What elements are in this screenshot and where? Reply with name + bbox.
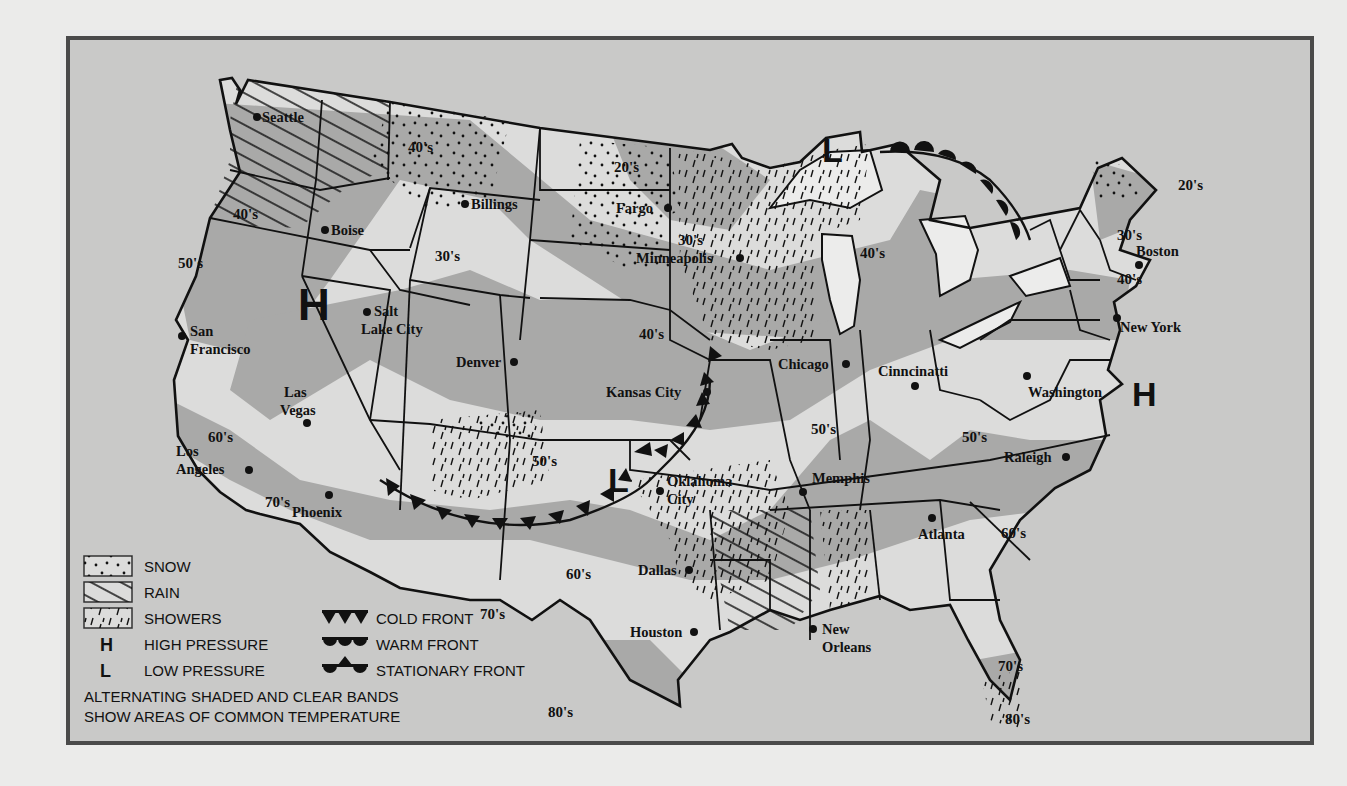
legend-low-label: LOW PRESSURE xyxy=(144,662,265,679)
city-salt-lake-city: Salt xyxy=(374,303,398,319)
temp-label: 40's xyxy=(408,139,433,155)
city-new-orleans: New xyxy=(822,621,850,637)
legend-note-line1: ALTERNATING SHADED AND CLEAR BANDS xyxy=(84,688,399,705)
city-las-vegas-line2: Vegas xyxy=(280,402,316,418)
temp-label: 60's xyxy=(208,429,233,445)
temp-label: 70's xyxy=(265,494,290,510)
legend-cold-front-label: COLD FRONT xyxy=(376,610,474,627)
high-pressure-east: H xyxy=(1132,375,1157,413)
legend-rain-label: RAIN xyxy=(144,584,180,601)
city-denver: Denver xyxy=(456,354,502,370)
legend-snow-label: SNOW xyxy=(144,558,192,575)
temp-label: 30's xyxy=(435,248,460,264)
temp-label: 50's xyxy=(532,453,557,469)
city-las-vegas: Las xyxy=(284,384,307,400)
legend-low-symbol: L xyxy=(100,661,111,681)
city-oklahoma-city: Oklahoma xyxy=(667,473,733,489)
city-new-orleans-line2: Orleans xyxy=(822,639,871,655)
city-new-york: New York xyxy=(1120,319,1182,335)
city-atlanta: Atlanta xyxy=(918,526,965,542)
city-cinncinatti: Cinncinatti xyxy=(878,363,948,379)
temp-label: 40's xyxy=(860,245,885,261)
legend-stationary-front-label: STATIONARY FRONT xyxy=(376,662,525,679)
legend-warm-front-label: WARM FRONT xyxy=(376,636,479,653)
temp-label: 40's xyxy=(1117,271,1142,287)
city-los-angeles-line2: Angeles xyxy=(176,461,225,477)
temp-label: 70's xyxy=(998,658,1023,674)
city-houston: Houston xyxy=(630,624,682,640)
us-weather-map: H H L L Seattle Boise Billings Fargo Min… xyxy=(70,40,1310,741)
city-washington: Washington xyxy=(1028,384,1102,400)
temp-label: 20's xyxy=(1178,177,1203,193)
city-los-angeles: Los xyxy=(176,443,199,459)
city-phoenix: Phoenix xyxy=(292,504,343,520)
legend-high-label: HIGH PRESSURE xyxy=(144,636,268,653)
city-boston: Boston xyxy=(1136,243,1179,259)
temp-label: 70's xyxy=(480,606,505,622)
city-san-francisco: San xyxy=(190,323,213,339)
city-salt-lake-city-line2: Lake City xyxy=(361,321,423,337)
temp-label: 50's xyxy=(962,429,987,445)
temp-label: 50's xyxy=(178,255,203,271)
temp-label: 50's xyxy=(811,421,836,437)
temp-label: 80's xyxy=(548,704,573,720)
temp-label: 20's xyxy=(614,159,639,175)
low-pressure-southern-plains: L xyxy=(608,461,629,499)
legend-warm-front-icon xyxy=(322,637,368,646)
city-minneapolis: Minneapolis xyxy=(636,250,713,266)
city-boise: Boise xyxy=(331,222,365,238)
temp-label: 60's xyxy=(566,566,591,582)
city-seattle: Seattle xyxy=(262,109,304,125)
weather-map-frame: H H L L Seattle Boise Billings Fargo Min… xyxy=(66,36,1314,745)
legend-cold-front-icon xyxy=(322,610,368,624)
city-fargo: Fargo xyxy=(616,200,653,216)
city-chicago: Chicago xyxy=(778,356,829,372)
temp-label: 30's xyxy=(1117,227,1142,243)
temp-label: 40's xyxy=(233,206,258,222)
city-kansas-city: Kansas City xyxy=(606,384,682,400)
temp-label: 80's xyxy=(1005,711,1030,727)
temp-label: 40's xyxy=(639,326,664,342)
city-san-francisco-line2: Francisco xyxy=(190,341,250,357)
city-billings: Billings xyxy=(471,196,518,212)
legend-high-symbol: H xyxy=(100,635,113,655)
temp-label: 60's xyxy=(1001,525,1026,541)
legend-showers-label: SHOWERS xyxy=(144,610,222,627)
city-raleigh: Raleigh xyxy=(1004,449,1052,465)
high-pressure-west: H xyxy=(298,280,330,329)
low-pressure-great-lakes: L xyxy=(822,131,843,169)
city-oklahoma-city-line2: City xyxy=(667,491,694,507)
city-memphis: Memphis xyxy=(812,470,870,486)
city-dallas: Dallas xyxy=(638,562,677,578)
temp-label: 30's xyxy=(678,232,703,248)
legend-note-line2: SHOW AREAS OF COMMON TEMPERATURE xyxy=(84,708,400,725)
legend-stationary-front-icon xyxy=(322,656,368,673)
